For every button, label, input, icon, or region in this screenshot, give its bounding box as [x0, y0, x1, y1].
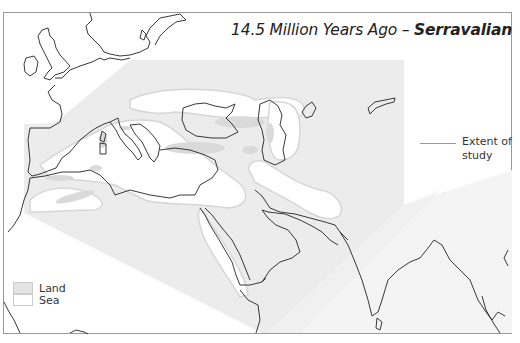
title-prefix: 14.5 Million Years Ago – [231, 21, 414, 39]
land-swatch [13, 282, 33, 294]
legend-item-land: Land [13, 282, 66, 294]
legend-label-sea: Sea [39, 294, 60, 307]
extent-of-study-label: Extent of study [462, 135, 512, 163]
legend: Land Sea [13, 282, 66, 306]
legend-item-sea: Sea [13, 294, 66, 306]
extent-leader-line [420, 143, 456, 144]
extent-label-line2: study [462, 149, 512, 163]
map-title: 14.5 Million Years Ago – Serravalian [231, 21, 512, 39]
extent-label-line1: Extent of [462, 135, 512, 149]
paleogeographic-map [0, 0, 520, 343]
sea-swatch [13, 294, 33, 306]
title-stage: Serravalian [414, 21, 512, 39]
